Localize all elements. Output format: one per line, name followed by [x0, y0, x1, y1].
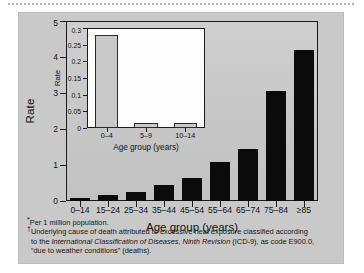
main-y-tick-label: 0 — [53, 196, 58, 206]
main-y-tick-label: 1 — [53, 160, 58, 170]
inset-y-tick-label: 0.25 — [68, 41, 81, 48]
footnote-line-4: “due to weather conditions” (deaths). — [27, 246, 337, 255]
inset-bar-chart: Rate 0 0.05 0.1 0.15 0.2 0.25 0.3 0–45–9… — [87, 28, 205, 128]
footnote-3-suffix: (ICD-9), as code E900.0, — [230, 237, 314, 246]
footnote-1-text: Per 1 million population. — [30, 218, 109, 227]
main-y-tick — [60, 201, 66, 202]
footnotes: *Per 1 million population. †Underlying c… — [27, 218, 337, 256]
main-x-tick-label: 45–54 — [180, 205, 204, 215]
top-dotted-rule — [8, 3, 356, 5]
main-bar — [154, 185, 174, 201]
inset-x-axis-title: Age group (years) — [113, 143, 179, 152]
inset-y-tick-label: 0 — [77, 125, 81, 132]
main-y-tick-label: 4 — [53, 52, 58, 62]
main-x-tick-label: 65–74 — [236, 205, 260, 215]
main-x-tick-label: 25–34 — [124, 205, 148, 215]
main-y-tick-label: 3 — [53, 88, 58, 98]
footnote-line-3: to the International Classification of D… — [27, 237, 337, 246]
inset-y-tick-label: 0.1 — [72, 91, 81, 98]
footnote-line-2: †Underlying cause of death attributed to… — [27, 227, 337, 236]
inset-x-tick-label: 0–4 — [101, 131, 113, 140]
main-bar — [294, 50, 314, 201]
inset-y-tick-label: 0.15 — [68, 75, 81, 82]
main-y-tick-label: 2 — [53, 124, 58, 134]
inset-y-tick-label: 0.2 — [72, 58, 81, 65]
main-bar — [238, 149, 258, 201]
main-x-tick-label: 55–64 — [208, 205, 232, 215]
main-x-tick-label: ≥85 — [297, 205, 311, 215]
main-x-tick-label: 0–14 — [70, 205, 89, 215]
figure-root: Rate 0 1 2 3 4 5 0–1415–2425–3435–4445–5… — [0, 0, 364, 273]
footnote-line-1: *Per 1 million population. — [27, 218, 337, 227]
footnote-2-text: Underlying cause of death attributed to … — [31, 227, 308, 236]
inset-bar — [95, 35, 119, 128]
main-y-tick-label: 5 — [53, 18, 58, 28]
inset-x-tick-label: 10–14 — [175, 131, 195, 140]
inset-y-tick — [83, 128, 87, 129]
footnote-3-prefix: to the — [31, 237, 52, 246]
inset-bar-series — [87, 28, 205, 128]
main-bar — [210, 162, 230, 201]
inset-y-tick-label: 0.05 — [68, 108, 81, 115]
figure-panel: Rate 0 1 2 3 4 5 0–1415–2425–3435–4445–5… — [18, 12, 344, 264]
main-bar — [182, 178, 202, 201]
main-y-axis-title: Rate — [24, 98, 36, 123]
main-bar — [126, 192, 146, 201]
inset-y-tick-label: 0.3 — [72, 27, 81, 34]
footnote-3-italic-title: International Classification of Diseases… — [52, 237, 231, 246]
main-x-tick-label: 75–84 — [264, 205, 288, 215]
inset-x-tick-label: 5–9 — [140, 131, 152, 140]
main-x-tick-label: 15–24 — [96, 205, 120, 215]
inset-y-axis-title: Rate — [53, 70, 62, 86]
main-bar — [266, 91, 286, 201]
main-x-tick-label: 35–44 — [152, 205, 176, 215]
